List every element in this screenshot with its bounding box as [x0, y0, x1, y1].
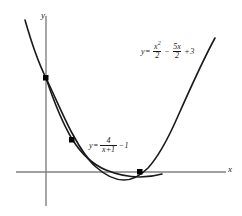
parabola-equals: = [145, 48, 152, 56]
intersection-point [43, 75, 49, 81]
hyperbola-numerator: 4 [105, 137, 113, 145]
hyperbola-equals: = [93, 142, 100, 150]
parabola-term2: 5x 2 [171, 43, 183, 60]
parabola-term1-numerator: x2 [152, 43, 163, 51]
intersection-point [137, 169, 143, 175]
hyperbola-equation-label: y = 4 x+1 − 1 [89, 137, 129, 154]
hyperbola-curve [46, 78, 162, 177]
math-figure: y x y = x2 2 − 5x 2 + 3 y = 4 x+1 [0, 0, 242, 216]
parabola-constant: 3 [190, 48, 194, 56]
parabola-minus: − [164, 48, 171, 56]
parabola-term1-denominator: 2 [153, 51, 161, 60]
x-axis-label: x [228, 165, 232, 174]
parabola-equation-label: y = x2 2 − 5x 2 + 3 [141, 43, 194, 60]
plot-canvas [0, 0, 242, 216]
parabola-term2-numerator: 5x [171, 43, 183, 51]
hyperbola-denominator: x+1 [100, 145, 117, 154]
hyperbola-constant: 1 [125, 142, 129, 150]
hyperbola-fraction: 4 x+1 [100, 137, 117, 154]
intersection-point [69, 137, 75, 143]
parabola-term1: x2 2 [152, 43, 163, 60]
y-axis-label: y [41, 11, 45, 20]
parabola-term2-denominator: 2 [173, 51, 181, 60]
